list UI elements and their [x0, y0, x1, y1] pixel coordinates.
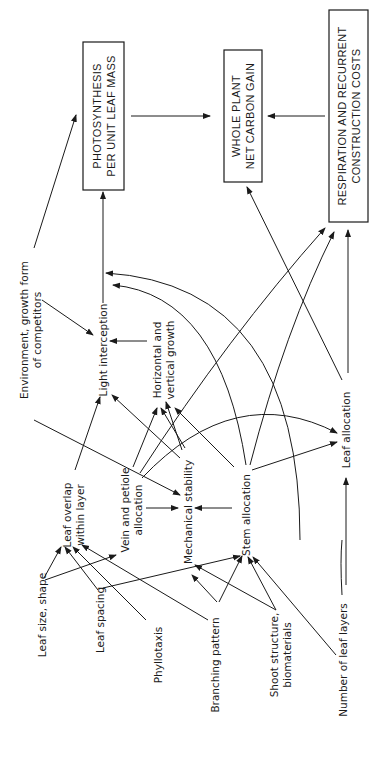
node-label-line: allocation [132, 484, 144, 535]
box-layer: PHOTOSYNTHESISPER UNIT LEAF MASSWHOLE PL… [83, 10, 368, 222]
box-label-line: CONSTRUCTION COSTS [350, 49, 362, 184]
arrow-connector [112, 395, 180, 458]
arrow-connector [192, 575, 217, 602]
node-label-line: Branching pattern [209, 617, 221, 712]
arrow-connector [341, 540, 342, 595]
node-layer: Environment, growth formof competitorsLi… [18, 261, 353, 717]
node-label-line: Horizontal and [151, 322, 163, 399]
arrow-connector [166, 402, 182, 450]
box-label-line: WHOLE PLANT [230, 75, 242, 157]
photosynthesis-box [83, 42, 124, 190]
node-label-line: Stem allocation [240, 474, 252, 556]
node-label-line: Vein and petiole [119, 468, 131, 553]
arrow-connector [75, 397, 100, 470]
arrow-connector [253, 557, 336, 655]
node-label-line: Mechanical stability [182, 460, 194, 564]
box-label-line: PER UNIT LEAF MASS [105, 55, 117, 176]
node-label-line: of competitors [31, 292, 43, 368]
box-label-line: NET CARBON GAIN [244, 63, 256, 169]
arrow-connector [103, 556, 240, 588]
node-label-line: Phyllotaxis [152, 627, 164, 684]
arrow-connector [73, 547, 146, 620]
box-label-line: PHOTOSYNTHESIS [91, 63, 103, 168]
node-label-line: biomaterials [281, 622, 293, 687]
arrow-connector [34, 420, 180, 495]
node-label-line: Environment, growth form [18, 261, 30, 399]
node-label-line: Number of leaf layers [337, 603, 349, 717]
node-label-line: Leaf overlap [61, 482, 73, 547]
node-label-line: vertical growth [164, 320, 176, 399]
box-label-line: RESPIRATION AND RECURRENT [336, 26, 348, 205]
arrow-connector [133, 408, 157, 467]
arrow-connector [142, 414, 337, 478]
arrow-connector [175, 408, 234, 467]
arrow-connector [252, 442, 337, 470]
node-label-line: Leaf spacing [94, 587, 106, 653]
arrow-connector [34, 115, 76, 248]
node-label-line: within layer [74, 484, 86, 546]
node-label-line: Leaf size, shape [36, 573, 48, 657]
node-label-line: Light interception [97, 304, 109, 397]
arrow-connector [219, 556, 242, 602]
arrow-connector [247, 187, 342, 380]
edge-layer [34, 115, 348, 655]
arrow-connector [65, 547, 98, 590]
arrow-connector [42, 300, 93, 335]
plant-carbon-gain-diagram: PHOTOSYNTHESISPER UNIT LEAF MASSWHOLE PL… [0, 0, 375, 757]
node-label-line: Leaf allocation [340, 392, 352, 469]
node-label-line: Shoot structure, [268, 613, 280, 698]
